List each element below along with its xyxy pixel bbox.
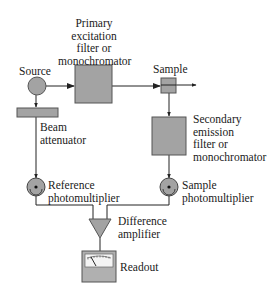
label-secondary-filter: Secondary emission filter or monochromat… (193, 113, 266, 163)
readout-meter-icon (82, 251, 116, 282)
label-sample: Sample (153, 63, 188, 76)
label-readout: Readout (120, 261, 158, 274)
secondary-filter-box (152, 117, 186, 155)
beam-attenuator-bar (17, 108, 58, 117)
difference-amplifier-icon (89, 219, 111, 238)
sample-photomultiplier-icon (160, 178, 178, 196)
label-beam-attenuator: Beam attenuator (40, 121, 86, 146)
label-difference-amplifier: Difference amplifier (118, 215, 167, 240)
label-sample-pmt: Sample photomultiplier (182, 179, 254, 204)
label-source: Source (19, 65, 51, 78)
reference-photomultiplier-icon (27, 178, 45, 196)
source-lamp (28, 77, 46, 95)
label-reference-pmt: Reference photomultiplier (48, 179, 120, 204)
primary-filter-box (75, 65, 112, 103)
label-primary-filter: Primary excitation filter or monochromat… (58, 17, 130, 67)
connectors (36, 85, 196, 251)
